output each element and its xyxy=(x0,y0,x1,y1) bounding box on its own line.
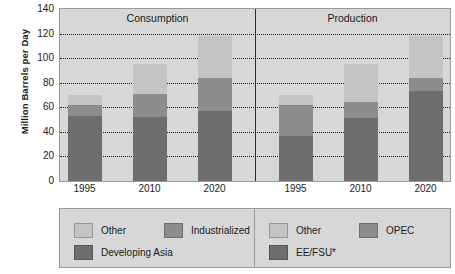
y-axis-tick-140: 140 xyxy=(37,4,54,14)
y-axis-tick-0: 0 xyxy=(48,176,54,186)
legend-item-developingasia[interactable]: Developing Asia xyxy=(74,245,173,260)
legend-label: EE/FSU* xyxy=(296,247,336,258)
bar-segment-other xyxy=(344,64,378,102)
legend-swatch-icon xyxy=(269,245,288,260)
y-axis-tick-80: 80 xyxy=(43,78,54,88)
bar-segment-other xyxy=(409,36,443,78)
x-axis-tick-production-2010: 2010 xyxy=(349,183,371,194)
bar-segment-other xyxy=(198,36,232,78)
x-axis-tick-consumption-2020: 2020 xyxy=(203,183,225,194)
legend-item-industrialized[interactable]: Industrialized xyxy=(164,223,250,238)
bar-segment-other xyxy=(133,64,167,93)
x-axis-tick-consumption-2010: 2010 xyxy=(138,183,160,194)
x-axis-tick-consumption-1995: 1995 xyxy=(73,183,95,194)
y-axis-tick-40: 40 xyxy=(43,127,54,137)
bar-segment-opec xyxy=(279,105,313,136)
bar-segment-industrialized xyxy=(68,105,102,116)
y-axis-tick-60: 60 xyxy=(43,102,54,112)
legend-swatch-icon xyxy=(74,223,93,238)
bar-consumption-2010 xyxy=(133,64,167,181)
bar-production-2020 xyxy=(409,36,443,181)
chart-root: Million Barrels per Day 1401201008060402… xyxy=(0,0,455,274)
bar-segment-other xyxy=(68,95,102,105)
panel-title-production: Production xyxy=(255,12,450,24)
legend-item-other[interactable]: Other xyxy=(269,223,321,238)
plot-area: Consumption Production xyxy=(59,8,451,182)
bar-segment-eefsu xyxy=(409,91,443,181)
legend-label: Developing Asia xyxy=(101,247,173,258)
bar-segment-industrialized xyxy=(133,94,167,117)
y-axis-tick-100: 100 xyxy=(37,53,54,63)
x-axis-tick-labels: 199520102020199520102020 xyxy=(59,183,451,199)
legend-swatch-icon xyxy=(359,223,378,238)
legend-item-opec[interactable]: OPEC xyxy=(359,223,414,238)
bar-segment-developingasia xyxy=(68,116,102,181)
bar-consumption-2020 xyxy=(198,36,232,181)
y-axis-tick-20: 20 xyxy=(43,151,54,161)
legend-consumption: OtherIndustrializedDeveloping Asia xyxy=(59,208,255,268)
bar-segment-industrialized xyxy=(198,78,232,111)
bar-segment-developingasia xyxy=(198,111,232,181)
panel-title-consumption: Consumption xyxy=(60,12,255,24)
legend-item-eefsu[interactable]: EE/FSU* xyxy=(269,245,336,260)
legend-label: Other xyxy=(101,225,126,236)
bar-segment-other xyxy=(279,95,313,105)
bar-production-2010 xyxy=(344,64,378,181)
x-axis-tick-production-1995: 1995 xyxy=(284,183,306,194)
legend-swatch-icon xyxy=(74,245,93,260)
legend-label: OPEC xyxy=(386,225,414,236)
bar-segment-opec xyxy=(344,102,378,118)
y-axis-tick-120: 120 xyxy=(37,29,54,39)
bar-segment-eefsu xyxy=(344,118,378,181)
y-axis-tick-labels: 140120100806040200 xyxy=(22,0,54,190)
panel-divider xyxy=(255,9,256,181)
bar-production-1995 xyxy=(279,95,313,181)
legend-item-other[interactable]: Other xyxy=(74,223,126,238)
bar-consumption-1995 xyxy=(68,95,102,181)
legend-label: Industrialized xyxy=(191,225,250,236)
legend-swatch-icon xyxy=(269,223,288,238)
plot-inner: Consumption Production xyxy=(60,9,450,181)
bar-segment-developingasia xyxy=(133,117,167,181)
bar-segment-opec xyxy=(409,78,443,92)
x-axis-tick-production-2020: 2020 xyxy=(414,183,436,194)
legend-production: OtherOPECEE/FSU* xyxy=(255,208,451,268)
legend-swatch-icon xyxy=(164,223,183,238)
bar-segment-eefsu xyxy=(279,136,313,181)
legend-label: Other xyxy=(296,225,321,236)
